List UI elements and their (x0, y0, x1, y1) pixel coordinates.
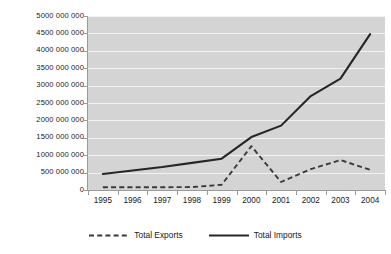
chart-legend: Total Exports Total Imports (0, 226, 391, 244)
y-axis-tick-label: 1000 000 000 (0, 151, 84, 159)
y-axis-tick-label: 4000 000 000 (0, 46, 84, 54)
legend-swatch-dashed-icon (89, 231, 129, 240)
plot-svg (88, 16, 385, 190)
y-axis-tick-label: 0 (0, 186, 84, 194)
y-axis-tick-label: 5000 000 000 (0, 12, 84, 20)
legend-swatch-solid-icon (209, 231, 249, 240)
x-axis (88, 190, 386, 195)
series-total-imports (103, 34, 370, 174)
x-axis-tick-label: 2004 (350, 196, 390, 206)
total-exports-line (103, 146, 370, 187)
y-axis-tick-labels: 0500 000 0001000 000 0001500 000 0002000… (0, 0, 84, 200)
gridlines (88, 17, 385, 174)
legend-entry-total-exports: Total Exports (89, 230, 182, 240)
total-imports-line (103, 34, 370, 174)
y-axis-tick-label: 4500 000 000 (0, 29, 84, 37)
legend-entry-total-imports: Total Imports (209, 230, 302, 240)
legend-label-total-exports: Total Exports (134, 230, 182, 240)
y-axis-tick-label: 2000 000 000 (0, 116, 84, 124)
y-axis-tick-label: 1500 000 000 (0, 133, 84, 141)
x-axis-tick-labels: 1995199619971998199920002001200220032004 (0, 196, 391, 212)
line-chart: 0500 000 0001000 000 0001500 000 0002000… (0, 0, 391, 254)
legend-label-total-imports: Total Imports (254, 230, 302, 240)
y-axis-tick-label: 500 000 000 (0, 168, 84, 176)
y-axis-tick-label: 3000 000 000 (0, 81, 84, 89)
series-total-exports (103, 146, 370, 187)
y-axis-tick-label: 2500 000 000 (0, 99, 84, 107)
y-axis-tick-label: 3500 000 000 (0, 64, 84, 72)
x-axis-ticks (89, 190, 386, 195)
plot-area (88, 16, 385, 190)
